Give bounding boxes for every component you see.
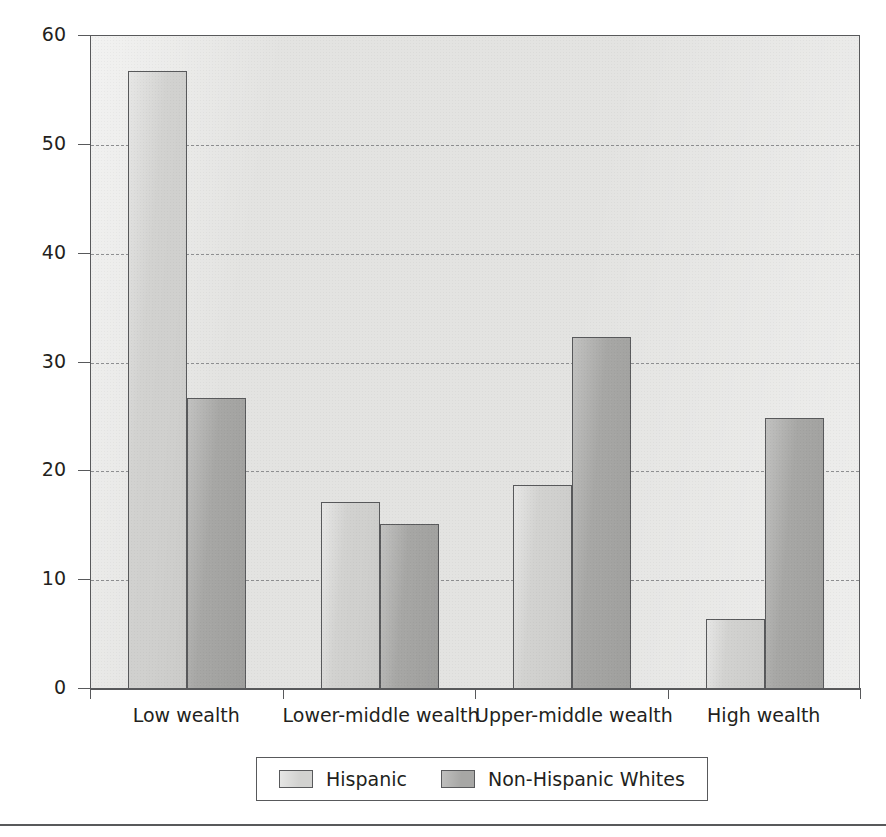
- gridline: [91, 145, 859, 146]
- x-tick-mark: [90, 688, 91, 699]
- y-tick-mark: [78, 35, 90, 36]
- y-tick-mark: [78, 253, 90, 254]
- y-tick-label: 10: [6, 567, 66, 589]
- y-tick-label: 0: [6, 676, 66, 698]
- bar-non-hispanic-whites: [187, 398, 246, 688]
- bar-non-hispanic-whites: [572, 337, 631, 688]
- legend-item-non-hispanic-whites: Non-Hispanic Whites: [441, 768, 685, 790]
- y-tick-label: 60: [6, 23, 66, 45]
- x-category-label: Low wealth: [90, 704, 283, 726]
- bar-hispanic: [321, 502, 380, 688]
- legend-swatch-non-hispanic-whites: [441, 770, 475, 788]
- x-tick-mark: [668, 688, 669, 699]
- legend-swatch-hispanic: [279, 770, 313, 788]
- x-tick-mark: [475, 688, 476, 699]
- bar-hispanic: [706, 619, 765, 688]
- y-tick-mark: [78, 579, 90, 580]
- legend-item-hispanic: Hispanic: [279, 768, 407, 790]
- y-tick-label: 50: [6, 132, 66, 154]
- y-tick-mark: [78, 688, 90, 689]
- bar-chart-figure: Percent 0102030405060 Low wealthLower-mi…: [0, 0, 886, 837]
- y-tick-mark: [78, 362, 90, 363]
- y-tick-mark: [78, 470, 90, 471]
- bar-hispanic: [513, 485, 572, 688]
- legend-label-hispanic: Hispanic: [326, 768, 407, 790]
- x-tick-mark: [283, 688, 284, 699]
- chart-legend: Hispanic Non-Hispanic Whites: [256, 757, 708, 801]
- y-tick-label: 20: [6, 458, 66, 480]
- legend-label-non-hispanic-whites: Non-Hispanic Whites: [488, 768, 685, 790]
- x-category-label: Lower-middle wealth: [283, 704, 476, 726]
- bar-non-hispanic-whites: [765, 418, 824, 688]
- gridline: [91, 254, 859, 255]
- footer-divider: [0, 824, 886, 826]
- y-tick-label: 30: [6, 350, 66, 372]
- gridline: [91, 363, 859, 364]
- x-category-label: Upper-middle wealth: [475, 704, 668, 726]
- bar-non-hispanic-whites: [380, 524, 439, 688]
- y-tick-mark: [78, 144, 90, 145]
- x-category-label: High wealth: [668, 704, 861, 726]
- bar-hispanic: [128, 71, 187, 688]
- y-tick-label: 40: [6, 241, 66, 263]
- x-tick-mark: [860, 688, 861, 699]
- plot-area: [90, 35, 860, 688]
